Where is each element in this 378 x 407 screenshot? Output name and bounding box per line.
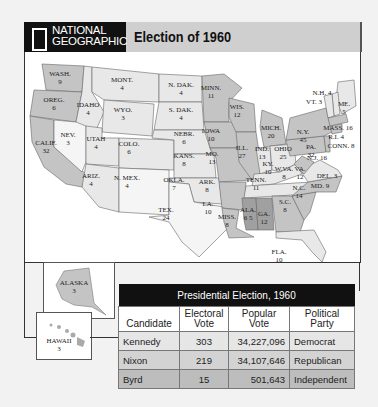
frame-right-connector xyxy=(359,262,360,291)
svg-text:4: 4 xyxy=(120,84,124,92)
svg-text:8: 8 xyxy=(225,221,229,229)
logo-line-2: GEOGRAPHIC xyxy=(52,36,127,47)
svg-text:ARIZ.: ARIZ. xyxy=(82,172,100,180)
alaska-inset: ALASKA3 xyxy=(43,262,115,319)
map-header: NATIONAL GEOGRAPHIC Election of 1960 xyxy=(24,22,362,52)
svg-text:S.C.: S.C. xyxy=(279,198,291,206)
svg-text:12: 12 xyxy=(234,111,242,119)
svg-text:N. MEX.: N. MEX. xyxy=(114,174,140,182)
svg-text:WYO.: WYO. xyxy=(114,106,133,114)
svg-text:CONN. 8: CONN. 8 xyxy=(328,142,355,150)
svg-text:8: 8 xyxy=(205,186,209,194)
state-fla xyxy=(276,230,326,262)
svg-text:4: 4 xyxy=(89,180,93,188)
svg-text:6: 6 xyxy=(52,104,56,112)
svg-text:OHIO: OHIO xyxy=(274,145,292,153)
svg-text:COLO.: COLO. xyxy=(119,140,140,148)
svg-text:CALIF.: CALIF. xyxy=(35,139,57,147)
electoral-cell: 303 xyxy=(180,332,229,351)
svg-text:3: 3 xyxy=(57,345,61,353)
svg-text:12: 12 xyxy=(261,218,269,226)
svg-text:27: 27 xyxy=(239,152,247,160)
svg-text:FLA.: FLA. xyxy=(272,248,287,256)
svg-text:WIS.: WIS. xyxy=(230,103,245,111)
table-row: Nixon 219 34,107,646 Republican xyxy=(119,351,355,370)
svg-text:14: 14 xyxy=(296,192,304,200)
svg-text:5: 5 xyxy=(342,108,346,116)
svg-text:ALASKA: ALASKA xyxy=(60,279,88,287)
frame-bottom-connector-mid xyxy=(90,337,118,338)
svg-text:4: 4 xyxy=(125,182,129,190)
svg-text:4: 4 xyxy=(86,109,90,117)
svg-text:6: 6 xyxy=(182,138,186,146)
svg-text:45: 45 xyxy=(300,136,308,144)
svg-text:GA.: GA. xyxy=(258,210,270,218)
svg-text:8: 8 xyxy=(282,173,286,181)
svg-text:UTAH: UTAH xyxy=(87,135,106,143)
table-row: Kennedy 303 34,227,096 Democrat xyxy=(119,332,355,351)
svg-text:IDAHO: IDAHO xyxy=(77,101,100,109)
svg-text:NEV.: NEV. xyxy=(60,131,75,139)
svg-text:KY.: KY. xyxy=(263,160,274,168)
svg-text:32: 32 xyxy=(43,147,51,155)
party-cell: Republican xyxy=(290,351,355,370)
state-mont xyxy=(92,67,159,102)
svg-text:3: 3 xyxy=(66,139,70,147)
popular-cell: 34,107,646 xyxy=(229,351,290,370)
svg-text:10: 10 xyxy=(276,256,284,262)
svg-text:N.H. 4: N.H. 4 xyxy=(313,89,332,97)
table-row: Byrd 15 501,643 Independent xyxy=(119,370,355,389)
svg-text:ME.: ME. xyxy=(338,100,351,108)
svg-text:8: 8 xyxy=(182,160,186,168)
svg-text:MONT.: MONT. xyxy=(111,76,133,84)
svg-text:4: 4 xyxy=(179,89,183,97)
svg-text:IND.: IND. xyxy=(255,145,269,153)
svg-text:MICH.: MICH. xyxy=(261,124,281,132)
party-cell: Independent xyxy=(290,370,355,389)
svg-text:6: 6 xyxy=(127,148,131,156)
svg-text:MASS. 16: MASS. 16 xyxy=(323,124,353,132)
candidate-cell: Byrd xyxy=(119,370,180,389)
svg-text:25: 25 xyxy=(280,153,288,161)
svg-text:11: 11 xyxy=(253,184,260,192)
svg-text:N.J. 16: N.J. 16 xyxy=(307,154,328,162)
svg-text:LA.: LA. xyxy=(202,200,213,208)
svg-text:HAWAII: HAWAII xyxy=(46,337,72,345)
electoral-cell: 219 xyxy=(180,351,229,370)
svg-text:4: 4 xyxy=(179,114,183,122)
candidate-cell: Kennedy xyxy=(119,332,180,351)
svg-text:6 5: 6 5 xyxy=(244,214,253,222)
svg-text:S. DAK.: S. DAK. xyxy=(169,106,194,114)
map-title: Election of 1960 xyxy=(134,28,231,45)
svg-text:N. DAK.: N. DAK. xyxy=(168,81,194,89)
svg-text:TENN.: TENN. xyxy=(246,176,267,184)
svg-text:MO.: MO. xyxy=(205,150,218,158)
svg-text:10: 10 xyxy=(265,168,273,176)
svg-text:9: 9 xyxy=(58,78,62,86)
popular-cell: 34,227,096 xyxy=(229,332,290,351)
svg-text:R.I. 4: R.I. 4 xyxy=(328,133,344,141)
yellow-border-icon xyxy=(32,28,47,51)
hawaii-map: HAWAII3 xyxy=(37,313,91,359)
svg-text:3: 3 xyxy=(121,114,125,122)
frame-left-connector xyxy=(24,262,25,337)
state-wash xyxy=(42,64,84,92)
alaska-map: ALASKA3 xyxy=(44,263,114,318)
svg-text:TEX.: TEX. xyxy=(158,206,174,214)
svg-text:VT. 3: VT. 3 xyxy=(306,98,322,106)
svg-text:ILL.: ILL. xyxy=(236,144,249,152)
svg-text:12: 12 xyxy=(297,173,305,181)
svg-text:24: 24 xyxy=(163,214,171,222)
popular-cell: 501,643 xyxy=(229,370,290,389)
svg-text:13: 13 xyxy=(209,158,217,166)
svg-text:ALA.: ALA. xyxy=(240,206,256,214)
svg-text:3: 3 xyxy=(72,287,76,295)
svg-text:N.C.: N.C. xyxy=(292,184,305,192)
svg-text:PA.: PA. xyxy=(306,143,316,151)
svg-text:IOWA: IOWA xyxy=(202,127,220,135)
svg-text:KANS.: KANS. xyxy=(174,152,195,160)
table-caption: Presidential Election, 1960 xyxy=(119,284,355,307)
candidate-cell: Nixon xyxy=(119,351,180,370)
col-candidate: Candidate xyxy=(119,307,180,332)
svg-text:WASH.: WASH. xyxy=(49,70,71,78)
